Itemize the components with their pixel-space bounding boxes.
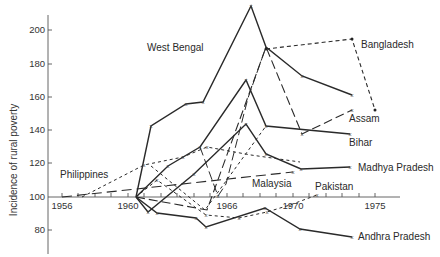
svg-text:x: x: [185, 101, 188, 107]
svg-text:x: x: [265, 151, 268, 157]
series-bangladesh: [266, 39, 375, 110]
svg-text:x: x: [349, 164, 352, 170]
y-tick-140: 140: [29, 124, 45, 135]
svg-text:x: x: [182, 154, 185, 160]
svg-text:x: x: [193, 171, 196, 177]
y-tick-200: 200: [29, 24, 45, 35]
label-pakistan: Pakistan: [315, 181, 353, 192]
label-bangladesh: Bangladesh: [361, 39, 414, 50]
label-andhra-pradesh: Andhra Pradesh: [358, 231, 430, 242]
label-philippines: Philippines: [60, 169, 108, 180]
label-west-bengal: West Bengal: [147, 42, 204, 53]
x-tick-1975: 1975: [364, 200, 385, 211]
svg-text:x: x: [292, 169, 295, 175]
y-tick-100: 100: [29, 191, 45, 202]
svg-text:x: x: [199, 144, 202, 150]
series-assam-extra: [200, 47, 266, 196]
y-tick-120: 120: [29, 157, 45, 168]
svg-text:x: x: [351, 107, 354, 113]
svg-text:x: x: [206, 144, 209, 150]
y-tick-160: 160: [29, 91, 45, 102]
svg-text:x: x: [195, 215, 198, 221]
svg-text:x: x: [351, 234, 354, 240]
svg-text:x: x: [156, 177, 159, 183]
svg-text:x: x: [150, 123, 153, 129]
x-tick-1960: 1960: [117, 200, 138, 211]
svg-text:x: x: [205, 212, 208, 218]
svg-text:x: x: [167, 163, 170, 169]
svg-text:x: x: [349, 131, 352, 137]
x-tick-1956: 1956: [51, 200, 72, 211]
y-tick-80: 80: [34, 224, 45, 235]
svg-text:x: x: [250, 3, 253, 9]
svg-text:x: x: [245, 121, 248, 127]
svg-text:x: x: [245, 77, 248, 83]
y-axis-label: Incidence of rural poverty: [8, 104, 19, 216]
svg-text:x: x: [299, 226, 302, 232]
svg-text:x: x: [351, 92, 354, 98]
line-chart: 200 180 160 140 120 100 80 Incidence of …: [0, 0, 440, 257]
svg-text:x: x: [301, 131, 304, 137]
svg-text:x: x: [300, 166, 303, 172]
y-tick-180: 180: [29, 58, 45, 69]
svg-text:x: x: [205, 224, 208, 230]
label-madhya-pradesh: Madhya Pradesh: [358, 162, 434, 173]
svg-text:x: x: [156, 210, 159, 216]
svg-text:x: x: [301, 73, 304, 79]
x-tick-1966: 1966: [216, 200, 237, 211]
label-bihar: Bihar: [349, 137, 373, 148]
svg-text:x: x: [265, 123, 268, 129]
x-tick-1970: 1970: [282, 200, 303, 211]
svg-text:x: x: [147, 209, 150, 215]
svg-text:x: x: [238, 215, 241, 221]
svg-text:x: x: [217, 193, 220, 199]
data-markers: xxx xxx xxx xxx xxx xxx xxx xxx xxx xxx …: [143, 3, 377, 240]
svg-text:x: x: [264, 205, 267, 211]
label-assam: Assam: [349, 113, 380, 124]
svg-text:x: x: [143, 162, 146, 168]
label-malaysia: Malaysia: [252, 178, 292, 189]
series-bihar: [136, 80, 350, 197]
svg-text:x: x: [202, 99, 205, 105]
svg-text:x: x: [316, 192, 319, 198]
svg-text:x: x: [289, 202, 292, 208]
